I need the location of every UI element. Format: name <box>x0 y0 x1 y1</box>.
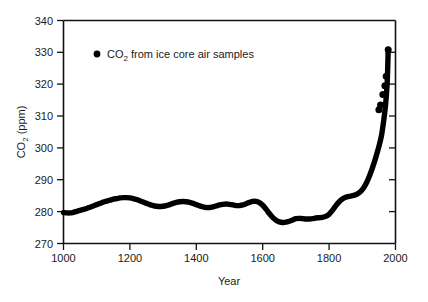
y-tick-label-280: 280 <box>35 206 53 218</box>
y-tick-label-300: 300 <box>35 142 53 154</box>
data-point <box>377 101 384 108</box>
x-tick-label-1800: 1800 <box>317 252 341 264</box>
legend-label-rest: from ice core air samples <box>128 48 254 60</box>
data-point <box>379 91 386 98</box>
data-point <box>385 46 392 53</box>
co2-curve <box>64 50 389 223</box>
x-axis-title: Year <box>218 275 241 287</box>
legend-label-main: CO <box>107 48 124 60</box>
legend-label: CO2 from ice core air samples <box>107 48 254 63</box>
chart-container: 270 280 290 300 310 320 330 340 1000 120… <box>0 0 428 302</box>
y-axis-ticks <box>57 21 64 244</box>
y-axis-title: CO2 (ppm) <box>15 106 30 159</box>
x-tick-label-1000: 1000 <box>51 252 75 264</box>
y-axis-title-unit: (ppm) <box>15 106 27 138</box>
y-tick-label-310: 310 <box>35 110 53 122</box>
y-tick-label-330: 330 <box>35 46 53 58</box>
y-tick-label-340: 340 <box>35 15 53 27</box>
x-axis-ticks <box>64 244 396 251</box>
y-tick-label-320: 320 <box>35 78 53 90</box>
x-axis-tick-labels: 1000 1200 1400 1600 1800 2000 <box>51 252 407 264</box>
legend: CO2 from ice core air samples <box>94 48 255 63</box>
x-tick-label-2000: 2000 <box>383 252 407 264</box>
y-tick-label-270: 270 <box>35 238 53 250</box>
data-point <box>381 82 388 89</box>
y-axis-tick-labels: 270 280 290 300 310 320 330 340 <box>35 15 53 250</box>
co2-ice-core-chart: 270 280 290 300 310 320 330 340 1000 120… <box>0 0 428 302</box>
y-tick-label-290: 290 <box>35 174 53 186</box>
x-tick-label-1400: 1400 <box>184 252 208 264</box>
y-axis-title-main: CO <box>15 141 27 158</box>
svg-text:CO2 (ppm): CO2 (ppm) <box>15 106 30 159</box>
legend-marker-icon <box>94 51 101 58</box>
x-tick-label-1600: 1600 <box>250 252 274 264</box>
data-point <box>383 73 390 80</box>
data-series-co2 <box>64 46 392 222</box>
x-tick-label-1200: 1200 <box>118 252 142 264</box>
